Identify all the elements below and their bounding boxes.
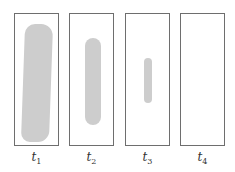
panel-t4: [180, 13, 225, 146]
label-t4: t4: [180, 150, 225, 166]
panel-t3: [125, 13, 170, 146]
shape-t3: [144, 58, 152, 103]
panel-t2: [69, 13, 114, 146]
label-t1: t1: [14, 150, 59, 166]
panel-t1: [14, 13, 59, 146]
label-t3: t3: [125, 150, 170, 166]
label-t2: t2: [69, 150, 114, 166]
shape-t2: [85, 38, 101, 125]
shape-t1: [21, 24, 53, 142]
